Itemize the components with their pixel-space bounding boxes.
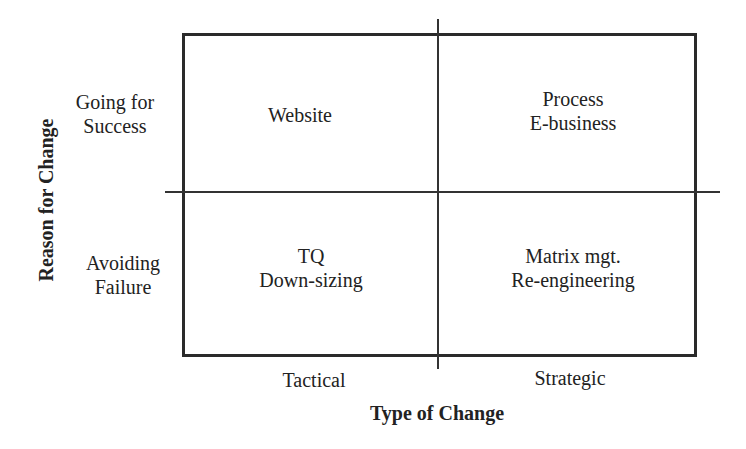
column-label-strategic: Strategic bbox=[534, 366, 605, 390]
row-label-failure-line1: Avoiding bbox=[86, 251, 160, 275]
quadrant-top-right-line2: E-business bbox=[530, 111, 617, 135]
quadrant-top-left-line1: Website bbox=[268, 103, 332, 127]
row-label-success-line2: Success bbox=[76, 114, 154, 138]
matrix-frame bbox=[182, 33, 697, 357]
vertical-divider bbox=[437, 19, 439, 369]
quadrant-bottom-left-line2: Down-sizing bbox=[259, 268, 362, 292]
quadrant-top-right: Process E-business bbox=[530, 87, 617, 135]
column-label-tactical: Tactical bbox=[283, 368, 346, 392]
quadrant-bottom-right-line1: Matrix mgt. bbox=[511, 244, 634, 268]
quadrant-bottom-right-line2: Re-engineering bbox=[511, 268, 634, 292]
row-label-success-line1: Going for bbox=[76, 90, 154, 114]
y-axis-title: Reason for Change bbox=[35, 119, 58, 282]
quadrant-bottom-right: Matrix mgt. Re-engineering bbox=[511, 244, 634, 292]
x-axis-title: Type of Change bbox=[370, 402, 504, 425]
row-label-failure-line2: Failure bbox=[86, 275, 160, 299]
row-label-failure: Avoiding Failure bbox=[86, 251, 160, 299]
quadrant-bottom-left-line1: TQ bbox=[259, 244, 362, 268]
quadrant-top-right-line1: Process bbox=[530, 87, 617, 111]
horizontal-divider bbox=[165, 191, 720, 193]
quadrant-top-left: Website bbox=[268, 103, 332, 127]
row-label-success: Going for Success bbox=[76, 90, 154, 138]
quadrant-bottom-left: TQ Down-sizing bbox=[259, 244, 362, 292]
